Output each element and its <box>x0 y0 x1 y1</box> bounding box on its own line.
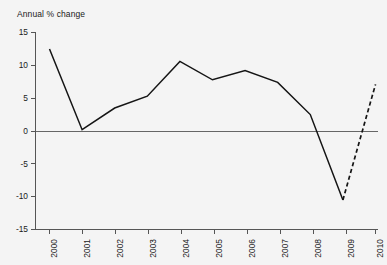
x-tick-label-2006: 2006 <box>247 239 257 258</box>
y-tick-label-minus5: -5 <box>21 159 29 169</box>
x-tick-label-2001: 2001 <box>82 239 92 258</box>
data-series-line-dashed-forecast <box>343 84 376 200</box>
x-tick-label-2003: 2003 <box>148 239 158 258</box>
y-tick-label-minus10: -10 <box>16 191 28 201</box>
x-tick-label-2007: 2007 <box>280 239 290 258</box>
data-series-line-solid <box>50 49 343 200</box>
y-tick-label-5: 5 <box>23 93 28 103</box>
y-tick-label-0: 0 <box>23 126 28 136</box>
x-tick-label-2000: 2000 <box>49 239 59 258</box>
x-tick-label-2010: 2010 <box>375 239 385 258</box>
y-tick-label-15: 15 <box>19 27 29 37</box>
x-tick-label-2008: 2008 <box>313 239 323 258</box>
x-axis: 2000 2001 2002 2003 2004 2005 2006 2007 … <box>36 230 386 258</box>
x-axis-ticks <box>50 230 376 234</box>
x-tick-label-2002: 2002 <box>115 239 125 258</box>
x-tick-label-2005: 2005 <box>214 239 224 258</box>
y-tick-label-10: 10 <box>19 60 29 70</box>
x-tick-label-2009: 2009 <box>346 239 356 258</box>
x-axis-labels: 2000 2001 2002 2003 2004 2005 2006 2007 … <box>49 239 385 258</box>
line-chart-plot: 15 10 5 0 -5 -10 -15 <box>0 0 387 265</box>
y-axis-labels: 15 10 5 0 -5 -10 -15 <box>16 27 28 234</box>
chart-container: Annual % change 15 10 5 0 -5 -10 -15 <box>0 0 387 265</box>
y-axis: 15 10 5 0 -5 -10 -15 <box>16 27 36 234</box>
y-tick-label-minus15: -15 <box>16 224 28 234</box>
y-axis-ticks <box>31 33 36 230</box>
x-tick-label-2004: 2004 <box>181 239 191 258</box>
